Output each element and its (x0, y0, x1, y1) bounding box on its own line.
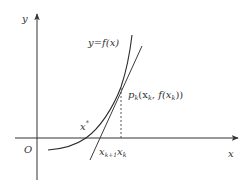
origin-label: O (24, 144, 32, 155)
point-pk-label: pk(xk, f(xk)) (128, 89, 183, 102)
newton-method-diagram: y x O y=f(x) pk(xk, f(xk)) x* xk+1 xk (0, 0, 250, 181)
root-label: x* (80, 119, 90, 132)
function-curve (48, 35, 132, 150)
x-k-label: xk (117, 146, 127, 159)
tangent-line (90, 46, 142, 160)
curve-label: y=f(x) (87, 37, 119, 48)
y-axis-label: y (21, 13, 28, 24)
x-k-plus-1-label: xk+1 (99, 146, 117, 158)
x-axis-label: x (228, 148, 234, 159)
